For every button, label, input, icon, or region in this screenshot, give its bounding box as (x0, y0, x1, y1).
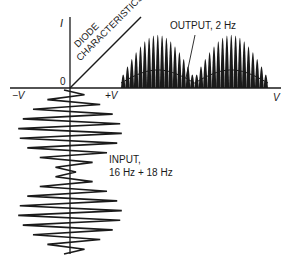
y-axis-label: I (60, 17, 63, 29)
input-label-line1: INPUT, (109, 154, 141, 165)
x-end-label: V (273, 92, 281, 103)
output-label: OUTPUT, 2 Hz (170, 20, 236, 31)
output-waveform (121, 35, 268, 88)
output-pointer-line (186, 35, 195, 78)
x-negative-label: −V (12, 90, 26, 101)
input-label-line2: 16 Hz + 18 Hz (109, 167, 173, 178)
origin-label: 0 (60, 76, 66, 87)
x-positive-label: +V (105, 90, 119, 101)
diode-rectifier-diagram: I 0 −V +V V DIODE CHARACTERISTICS OUTPUT… (0, 0, 291, 263)
